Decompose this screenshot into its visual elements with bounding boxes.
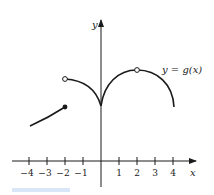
y-axis-label: y [91, 19, 98, 30]
tick-label: 2 [134, 168, 140, 178]
curve-left-piece [30, 107, 65, 126]
figure-caption-fragment [12, 188, 70, 192]
function-label: y = g(x) [161, 64, 202, 75]
open-point-icon [63, 77, 68, 82]
tick-label: 4 [170, 168, 176, 178]
graph-of-g: −4 −3 −2 −1 1 2 3 4 y x y = g(x) [0, 0, 214, 195]
x-axis-label: x [190, 167, 196, 178]
open-point-icon [135, 68, 140, 73]
tick-label: −2 [56, 168, 69, 178]
tick-label: −4 [20, 168, 34, 178]
tick-label: 1 [116, 168, 122, 178]
tick-label: 3 [152, 168, 158, 178]
curve-right-arch [101, 70, 174, 107]
tick-label: −3 [38, 168, 52, 178]
x-tick-labels: −4 −3 −2 −1 1 2 3 4 [20, 168, 176, 178]
closed-point-icon [63, 105, 68, 110]
curve-middle-piece [65, 79, 101, 106]
tick-label: −1 [74, 168, 87, 178]
